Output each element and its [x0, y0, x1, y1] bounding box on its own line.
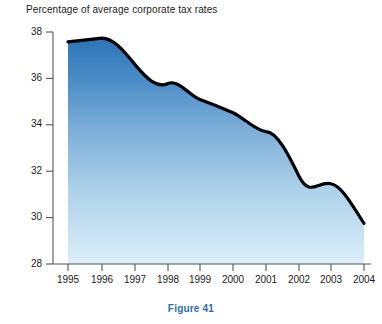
x-tick-label-2003: 2003 — [320, 274, 343, 285]
x-tick-label-1998: 1998 — [157, 274, 180, 285]
x-tick-label-1996: 1996 — [91, 274, 114, 285]
x-tick-label-1995: 1995 — [57, 274, 80, 285]
figure-container: Percentage of average corporate tax rate… — [0, 0, 382, 324]
y-axis: 38 36 34 32 30 28 — [31, 26, 53, 269]
y-tick-label-32: 32 — [31, 165, 43, 176]
x-tick-label-1999: 1999 — [189, 274, 212, 285]
x-axis: 1995 1996 1997 1998 1999 2000 2001 2002 … — [53, 264, 376, 285]
y-tick-label-28: 28 — [31, 258, 43, 269]
area-fill-series — [68, 38, 364, 264]
chart-plot-area: 38 36 34 32 30 28 1995 1996 1997 1998 19… — [0, 0, 382, 300]
y-tick-label-34: 34 — [31, 118, 43, 129]
x-tick-label-2000: 2000 — [222, 274, 245, 285]
y-tick-label-38: 38 — [31, 26, 43, 37]
x-tick-label-2001: 2001 — [255, 274, 278, 285]
x-tick-label-2002: 2002 — [288, 274, 311, 285]
y-tick-label-36: 36 — [31, 72, 43, 83]
x-tick-label-1997: 1997 — [124, 274, 147, 285]
x-tick-label-2004: 2004 — [353, 274, 376, 285]
figure-caption: Figure 41 — [0, 303, 382, 314]
y-tick-label-30: 30 — [31, 211, 43, 222]
